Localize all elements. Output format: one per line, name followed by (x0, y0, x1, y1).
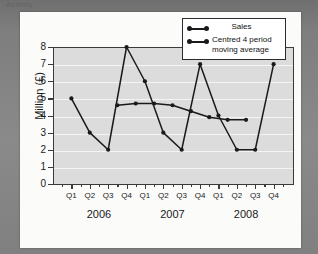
x-axis-minor-tick (154, 184, 155, 187)
x-axis-minor-tick (81, 184, 82, 187)
legend-line-marker-icon (187, 36, 209, 47)
plot-area (53, 47, 294, 185)
y-axis-tick (48, 116, 53, 117)
y-axis-tick (48, 98, 53, 99)
x-axis-tick (218, 184, 219, 189)
legend-line-marker-icon (187, 23, 209, 34)
x-axis-quarter-label: Q1 (208, 191, 228, 200)
cropped-header-text: Activity (6, 0, 66, 9)
x-axis-quarter-label: Q3 (172, 191, 192, 200)
y-axis-tick (48, 81, 53, 82)
legend-item-label: Sales (212, 22, 281, 32)
y-axis-tick (48, 184, 53, 185)
y-axis-tick (48, 47, 53, 48)
y-axis-tick (48, 167, 53, 168)
legend-item-moving-average: Centred 4 period moving average (187, 35, 281, 54)
x-axis-quarter-label: Q4 (264, 191, 284, 200)
x-axis-tick (71, 184, 72, 189)
x-axis-tick (127, 184, 128, 189)
y-axis-tick (48, 64, 53, 65)
x-axis-tick (182, 184, 183, 189)
gridline (54, 117, 293, 118)
x-axis-quarter-label: Q2 (80, 191, 100, 200)
y-axis-title: Million (£) (33, 41, 45, 151)
x-axis-minor-tick (264, 184, 265, 187)
x-axis-quarter-label: Q1 (135, 191, 155, 200)
x-axis-tick (108, 184, 109, 189)
x-axis-minor-tick (99, 184, 100, 187)
x-axis-minor-tick (136, 184, 137, 187)
x-axis-minor-tick (117, 184, 118, 187)
x-axis-minor-tick (228, 184, 229, 187)
x-axis-quarter-label: Q1 (61, 191, 81, 200)
y-axis-tick (48, 133, 53, 134)
x-axis-tick (90, 184, 91, 189)
legend: Sales Centred 4 period moving average (182, 18, 286, 60)
x-axis-year-label: 2006 (69, 208, 129, 220)
gridlines (54, 48, 293, 185)
x-axis-minor-tick (62, 184, 63, 187)
x-axis-quarter-label: Q2 (227, 191, 247, 200)
gridline (54, 82, 293, 83)
gridline (54, 65, 293, 66)
x-axis-minor-tick (283, 184, 284, 187)
x-axis-year-label: 2007 (143, 208, 203, 220)
x-axis-quarter-label: Q2 (153, 191, 173, 200)
x-axis-year-label: 2008 (216, 208, 276, 220)
x-axis-tick (163, 184, 164, 189)
screenshot-page: Activity 012345678 Million (£) Q1Q2Q3Q4Q… (0, 0, 318, 254)
x-axis-minor-tick (191, 184, 192, 187)
figure-card: 012345678 Million (£) Q1Q2Q3Q4Q1Q2Q3Q4Q1… (20, 12, 301, 248)
gridline (54, 99, 293, 100)
x-axis-tick (237, 184, 238, 189)
x-axis-tick (200, 184, 201, 189)
x-axis-tick (145, 184, 146, 189)
x-axis-quarter-label: Q4 (117, 191, 137, 200)
gridline (54, 168, 293, 169)
legend-item-sales: Sales (187, 22, 281, 34)
gridline (54, 134, 293, 135)
line-chart: 012345678 Million (£) Q1Q2Q3Q4Q1Q2Q3Q4Q1… (20, 12, 301, 248)
x-axis-quarter-label: Q4 (190, 191, 210, 200)
y-axis-tick-label: 1 (24, 162, 46, 172)
y-axis-tick-label: 0 (24, 179, 46, 189)
x-axis-minor-tick (173, 184, 174, 187)
x-axis-tick (274, 184, 275, 189)
legend-item-label: Centred 4 period moving average (212, 35, 281, 54)
x-axis-minor-tick (209, 184, 210, 187)
y-axis-tick (48, 150, 53, 151)
x-axis-quarter-label: Q3 (98, 191, 118, 200)
x-axis-tick (255, 184, 256, 189)
x-axis-minor-tick (246, 184, 247, 187)
x-axis-quarter-label: Q3 (245, 191, 265, 200)
gridline (54, 151, 293, 152)
